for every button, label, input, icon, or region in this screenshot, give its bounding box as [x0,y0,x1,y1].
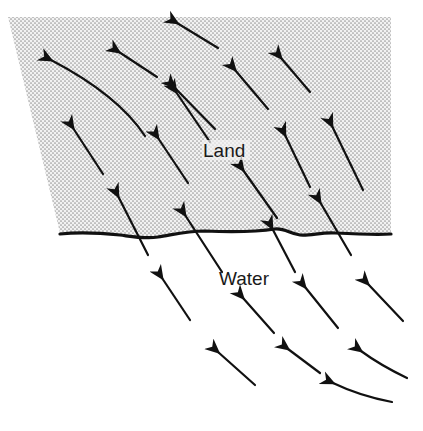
wind-arrow-icon [333,383,392,402]
wind-arrow-icon [162,278,190,320]
wind-arrow-icon [305,287,338,328]
wind-arrow-icon [361,351,407,378]
wind-arrow-icon [218,352,255,385]
sea-breeze-diagram: Land Water [0,0,423,431]
water-label: Water [219,268,270,289]
land-label: Land [203,140,245,161]
wind-arrow-icon [243,298,274,333]
wind-arrow-icon [272,228,295,272]
wind-arrow-icon [368,284,403,321]
wind-arrow-icon [288,349,320,373]
